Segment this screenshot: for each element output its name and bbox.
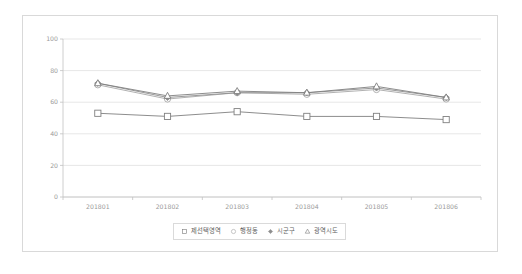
legend-label: 광역시도 bbox=[314, 228, 338, 234]
square-open-icon bbox=[181, 228, 188, 235]
legend-label: 시군구 bbox=[277, 228, 295, 234]
axes bbox=[60, 39, 481, 200]
data-point-marker bbox=[164, 113, 170, 119]
data-point-marker bbox=[373, 113, 379, 119]
series-3 bbox=[95, 80, 450, 100]
triangle-open-icon bbox=[304, 228, 311, 235]
data-point-marker bbox=[443, 116, 449, 122]
circle-open-icon bbox=[230, 228, 237, 235]
line-chart: 020406080100 201801201802201803201804201… bbox=[23, 16, 499, 253]
plot-area: 020406080100 201801201802201803201804201… bbox=[23, 16, 499, 253]
chart-card: 020406080100 201801201802201803201804201… bbox=[22, 15, 498, 252]
y-tick-label: 80 bbox=[50, 67, 58, 74]
data-point-marker bbox=[95, 110, 101, 116]
legend-entry-1[interactable]: 제선택영역 bbox=[181, 228, 221, 235]
y-tick-label: 60 bbox=[50, 98, 58, 105]
y-tick-label: 100 bbox=[46, 35, 58, 42]
y-tick-label: 20 bbox=[50, 162, 58, 169]
diamond-solid-icon bbox=[267, 228, 274, 235]
data-point-marker bbox=[304, 113, 310, 119]
legend-entry-4[interactable]: 광역시도 bbox=[304, 228, 338, 235]
series-layer bbox=[95, 80, 450, 123]
series-1 bbox=[95, 109, 450, 123]
legend-label: 제선택영역 bbox=[191, 228, 221, 234]
chart-legend[interactable]: 제선택영역행정동시군구광역시도 bbox=[173, 223, 346, 240]
y-axis-tick-labels: 020406080100 bbox=[46, 35, 58, 200]
x-tick-label: 201801 bbox=[86, 203, 110, 210]
legend-entry-3[interactable]: 시군구 bbox=[267, 228, 295, 235]
y-tick-label: 0 bbox=[54, 193, 58, 200]
x-tick-label: 201806 bbox=[434, 203, 458, 210]
x-tick-label: 201802 bbox=[156, 203, 180, 210]
x-tick-label: 201805 bbox=[365, 203, 389, 210]
series-line bbox=[98, 112, 446, 120]
data-point-marker bbox=[373, 83, 380, 89]
data-point-marker bbox=[234, 109, 240, 115]
x-tick-label: 201804 bbox=[295, 203, 319, 210]
x-axis-tick-labels: 201801201802201803201804201805201806 bbox=[86, 203, 458, 210]
legend-label: 행정동 bbox=[240, 228, 258, 234]
x-tick-label: 201803 bbox=[225, 203, 249, 210]
series-4 bbox=[95, 80, 450, 100]
legend-entry-2[interactable]: 행정동 bbox=[230, 228, 258, 235]
y-tick-label: 40 bbox=[50, 130, 58, 137]
